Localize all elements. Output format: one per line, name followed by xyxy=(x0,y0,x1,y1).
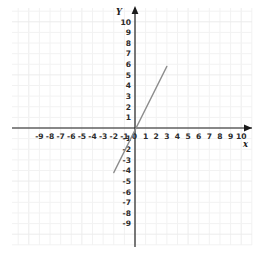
data-series xyxy=(114,66,167,172)
y-axis-tick-labels: 10987654321-1-2-3-4-5-6-7-8-9 xyxy=(120,18,131,229)
x-tick-label: 3 xyxy=(164,132,169,141)
x-tick-label: 4 xyxy=(175,132,180,141)
x-tick-label: -8 xyxy=(46,132,54,141)
x-tick-label: 5 xyxy=(185,132,190,141)
x-tick-label: 7 xyxy=(207,132,212,141)
y-tick-label: 4 xyxy=(126,81,131,90)
x-tick-label: -3 xyxy=(99,132,107,141)
x-tick-label: -7 xyxy=(56,132,64,141)
x-tick-label: -2 xyxy=(110,132,118,141)
y-tick-label: 6 xyxy=(126,60,131,69)
x-tick-label: -5 xyxy=(78,132,86,141)
x-tick-label: 2 xyxy=(154,132,159,141)
y-tick-label: -3 xyxy=(123,156,131,165)
x-tick-label: 6 xyxy=(196,132,201,141)
y-tick-label: 9 xyxy=(126,28,131,37)
x-tick-label: 1 xyxy=(143,132,148,141)
x-tick-label: 8 xyxy=(217,132,222,141)
axes xyxy=(12,6,252,247)
y-tick-label: 1 xyxy=(126,113,131,122)
x-tick-label: -6 xyxy=(67,132,75,141)
y-tick-label: 7 xyxy=(126,49,131,58)
graph-canvas: -9-8-7-6-5-4-3-2-1012345678910 109876543… xyxy=(0,0,265,263)
x-axis-label: x xyxy=(242,139,249,149)
y-tick-label: -8 xyxy=(123,209,131,218)
y-tick-label: 2 xyxy=(126,103,131,112)
y-tick-label: 5 xyxy=(126,71,131,80)
x-axis-tick-labels: -9-8-7-6-5-4-3-2-1012345678910 xyxy=(35,132,246,141)
y-tick-label: 10 xyxy=(120,18,131,27)
y-tick-label: -9 xyxy=(123,219,131,228)
plotted-line-line-segment xyxy=(114,66,167,172)
y-axis-arrow-icon xyxy=(132,6,139,14)
y-axis-label: Y xyxy=(116,7,123,17)
y-tick-label: -4 xyxy=(123,166,131,175)
x-tick-label: -4 xyxy=(88,132,96,141)
y-tick-label: -7 xyxy=(123,198,131,207)
y-tick-label: 3 xyxy=(126,92,131,101)
coordinate-plane-figure: -9-8-7-6-5-4-3-2-1012345678910 109876543… xyxy=(0,0,265,263)
x-tick-label: 9 xyxy=(228,132,233,141)
y-tick-label: -6 xyxy=(123,188,131,197)
y-tick-label: 8 xyxy=(126,39,131,48)
x-axis-arrow-icon xyxy=(244,125,252,132)
grid-lines xyxy=(12,8,252,245)
x-tick-label: -9 xyxy=(35,132,43,141)
y-tick-label: -5 xyxy=(123,177,131,186)
